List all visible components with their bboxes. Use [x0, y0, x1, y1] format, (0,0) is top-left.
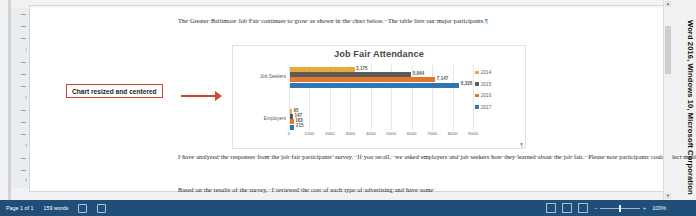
bar-data-label: 5,964 — [413, 71, 425, 76]
chart-plot-area: Job Seekers3,1755,9647,1478,328Employers… — [289, 65, 473, 130]
bar-data-label: 3,175 — [356, 66, 368, 71]
legend-item-2016[interactable]: 2016 — [475, 93, 519, 98]
value-axis-labels: 0100020003000400050006000700080009000 — [289, 131, 473, 139]
legend-swatch-icon — [475, 94, 479, 98]
gridline — [432, 65, 433, 130]
web-layout-icon[interactable] — [578, 203, 588, 213]
word-count[interactable]: 159 words — [44, 205, 69, 211]
accessibility-icon[interactable] — [97, 204, 106, 213]
legend-item-2015[interactable]: 2015 — [475, 82, 519, 87]
value-axis-tick: 4000 — [366, 131, 376, 136]
gridline — [473, 65, 474, 130]
value-axis-tick: 9000 — [468, 131, 478, 136]
callout-arrow-line — [181, 95, 217, 97]
legend-swatch-icon — [475, 82, 479, 86]
legend-label: 2016 — [481, 93, 491, 98]
bar-data-label: 7,147 — [437, 76, 449, 81]
read-mode-icon[interactable] — [546, 203, 556, 213]
callout-chart-resized: Chart resized and centered — [66, 84, 163, 98]
legend-swatch-icon — [475, 105, 479, 109]
value-axis-tick: 6000 — [407, 131, 417, 136]
proofing-icon[interactable] — [78, 204, 87, 213]
chart-object[interactable]: Job Fair Attendance Job Seekers3,1755,96… — [232, 45, 526, 149]
bar-2017-job-seekers[interactable]: 8,328 — [290, 83, 459, 88]
scroll-down-icon[interactable]: ▼ — [665, 193, 671, 199]
value-axis-tick: 8000 — [448, 131, 458, 136]
legend-item-2017[interactable]: 2017 — [475, 105, 519, 110]
legend-label: 2015 — [481, 82, 491, 87]
legend-swatch-icon — [475, 71, 479, 75]
paragraph-advertising-text: Based·on·the·results·of·the·survey,··I·r… — [178, 186, 435, 193]
document-page[interactable]: The·Greater·Baltimore·Job·Fair·continues… — [30, 6, 668, 191]
scroll-up-icon[interactable]: ▲ — [665, 1, 671, 7]
ruler-mark-3: 3 — [25, 144, 27, 148]
category-axis-label: Employers — [264, 116, 286, 121]
figure-caption: Word 2016, Windows 10, Microsoft Corpora… — [686, 20, 695, 195]
value-axis-tick: 1000 — [305, 131, 315, 136]
callout-text: Chart resized and centered — [72, 88, 157, 95]
status-bar: Page 1 of 1 159 words − + 100% — [0, 200, 696, 216]
value-axis-tick: 0 — [288, 131, 290, 136]
zoom-in-button[interactable]: + — [643, 205, 647, 211]
value-axis-tick: 7000 — [427, 131, 437, 136]
zoom-thumb[interactable] — [619, 205, 621, 212]
paragraph-advertising[interactable]: Based·on·the·results·of·the·survey,··I·r… — [178, 185, 510, 196]
gridline — [453, 65, 454, 130]
zoom-slider[interactable]: − + — [594, 204, 646, 212]
vertical-scrollbar[interactable]: ▲ ▼ — [663, 0, 672, 200]
bar-2017-employers[interactable]: 215 — [290, 125, 294, 130]
legend-item-2014[interactable]: 2014 — [475, 70, 519, 75]
pilcrow-icon: ¶ — [520, 142, 523, 148]
ruler-mark-4: 4 — [25, 178, 27, 182]
legend-label: 2017 — [481, 105, 491, 110]
scrollbar-thumb[interactable] — [665, 26, 671, 74]
chart-legend[interactable]: 2014201520162017 — [475, 70, 519, 116]
bar-data-label: 8,328 — [461, 81, 473, 86]
word-application-window: 1 2 3 4 The·Greater·Baltimore·Job·Fair·c… — [0, 0, 696, 216]
chart-title: Job Fair Attendance — [233, 49, 525, 59]
bar-data-label: 215 — [296, 123, 304, 128]
paragraph-survey-text: I·have·analyzed·the·responses·from·the·j… — [178, 153, 696, 160]
zoom-level[interactable]: 100% — [652, 205, 666, 211]
callout-arrow-head — [215, 91, 222, 101]
page-indicator[interactable]: Page 1 of 1 — [6, 205, 34, 211]
paragraph-intro-text: The·Greater·Baltimore·Job·Fair·continues… — [178, 17, 485, 24]
value-axis-tick: 5000 — [386, 131, 396, 136]
zoom-out-button[interactable]: − — [594, 205, 598, 211]
print-layout-icon[interactable] — [562, 203, 572, 213]
paragraph-intro[interactable]: The·Greater·Baltimore·Job·Fair·continues… — [178, 16, 510, 27]
value-axis-tick: 3000 — [345, 131, 355, 136]
ruler-mark-2: 2 — [25, 96, 27, 100]
page-top-shade — [30, 6, 668, 8]
ruler-mark-1: 1 — [25, 48, 27, 52]
paragraph-survey[interactable]: I·have·analyzed·the·responses·from·the·j… — [178, 152, 510, 163]
category-axis-label: Job Seekers — [260, 74, 286, 79]
vertical-ruler[interactable]: 1 2 3 4 — [11, 8, 30, 188]
value-axis-tick: 2000 — [325, 131, 335, 136]
legend-label: 2014 — [481, 70, 491, 75]
pilcrow-icon: ¶ — [485, 18, 488, 24]
